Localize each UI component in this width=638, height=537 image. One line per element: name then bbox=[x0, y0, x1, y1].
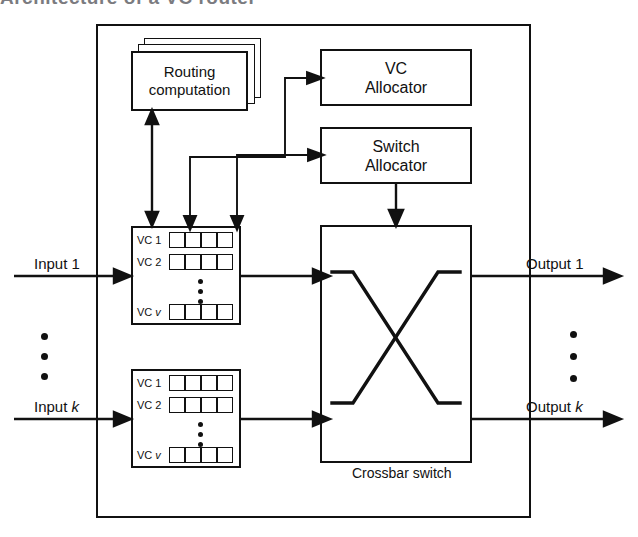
output-ports-ellipsis-dot-1 bbox=[570, 353, 577, 360]
input-1-port-label: Input 1 bbox=[34, 256, 80, 273]
crossbar-x-glyph bbox=[320, 225, 472, 463]
input-unit-k-vc2-flit-2 bbox=[201, 397, 217, 413]
input-unit-k-ellipsis-dot-1 bbox=[198, 432, 203, 437]
input-unit-1-vcv-flit-2 bbox=[201, 304, 217, 320]
input-unit-1-vc2-flit-2 bbox=[201, 254, 217, 270]
input-unit-1-vc2-flit-3 bbox=[217, 254, 233, 270]
output-ports-ellipsis-dot-2 bbox=[570, 375, 577, 382]
input-unit-1-vc1-flit-0 bbox=[169, 232, 185, 248]
input-ports-ellipsis-dot-2 bbox=[41, 373, 48, 380]
input-unit-1-vc1-label: VC 1 bbox=[137, 234, 161, 246]
switch-allocator-to-crossbar-arrow bbox=[386, 184, 406, 228]
input-unit-k-vcv-flit-1 bbox=[185, 447, 201, 463]
input-unit-1-to-crossbar-arrow bbox=[241, 268, 333, 284]
switch-allocator-label: Switch Allocator bbox=[322, 137, 470, 175]
input-unit-k-vcv-flit-2 bbox=[201, 447, 217, 463]
input-unit-1-vc2-label: VC 2 bbox=[137, 256, 161, 268]
input-unit-1-vc1-flit-2 bbox=[201, 232, 217, 248]
output-ports-ellipsis-dot-0 bbox=[570, 331, 577, 338]
cropped-title-fragment: Architecture of a VC router bbox=[0, 0, 300, 9]
crossbar-switch-caption: Crossbar switch bbox=[352, 466, 452, 482]
input-unit-k-vc2-flit-0 bbox=[169, 397, 185, 413]
input-ports-ellipsis-dot-1 bbox=[41, 353, 48, 360]
input-unit-k-to-crossbar-arrow bbox=[241, 411, 333, 427]
output-1-port-label: Output 1 bbox=[526, 256, 584, 273]
routing-to-input-bidirectional-arrow bbox=[140, 108, 170, 230]
input-unit-1-vcv-flit-1 bbox=[185, 304, 201, 320]
input-unit-k-vc1-flit-3 bbox=[217, 375, 233, 391]
switch-allocator-block: Switch Allocator bbox=[320, 127, 472, 184]
input-unit-k-vc1-label: VC 1 bbox=[137, 377, 161, 389]
input-ports-ellipsis-dot-0 bbox=[41, 333, 48, 340]
vc-allocator-block: VC Allocator bbox=[320, 49, 472, 106]
input-unit-k-vc1-flit-2 bbox=[201, 375, 217, 391]
input-unit-k-vc2-label: VC 2 bbox=[137, 399, 161, 411]
input-unit-1-vc1-flit-1 bbox=[185, 232, 201, 248]
router-architecture-diagram: Architecture of a VC router Routing comp… bbox=[0, 0, 638, 537]
input-unit-k-vc2-flit-3 bbox=[217, 397, 233, 413]
input-unit-1-ellipsis-dot-0 bbox=[198, 279, 203, 284]
output-k-port-label: Output k bbox=[526, 399, 583, 416]
vc-allocator-label: VC Allocator bbox=[322, 59, 470, 97]
input-unit-1-vcv-flit-0 bbox=[169, 304, 185, 320]
input-k-port-label: Input k bbox=[34, 399, 79, 416]
input-unit-1-vc1-flit-3 bbox=[217, 232, 233, 248]
input-unit-k-vc2-flit-1 bbox=[185, 397, 201, 413]
input-unit-k-vcv-label: VC v bbox=[137, 449, 161, 461]
input-unit-1-vcv-label: VC v bbox=[137, 306, 161, 318]
input-unit-k-ellipsis-dot-0 bbox=[198, 422, 203, 427]
input-unit-k-vc1-flit-1 bbox=[185, 375, 201, 391]
input-unit-1-vcv-flit-3 bbox=[217, 304, 233, 320]
input-to-switch-allocator-arrow bbox=[222, 149, 328, 230]
input-unit-1-ellipsis-dot-1 bbox=[198, 289, 203, 294]
input-unit-1-vc2-flit-1 bbox=[185, 254, 201, 270]
input-unit-k-vcv-flit-0 bbox=[169, 447, 185, 463]
input-unit-1-vc2-flit-0 bbox=[169, 254, 185, 270]
input-unit-k-vc1-flit-0 bbox=[169, 375, 185, 391]
input-unit-k-vcv-flit-3 bbox=[217, 447, 233, 463]
